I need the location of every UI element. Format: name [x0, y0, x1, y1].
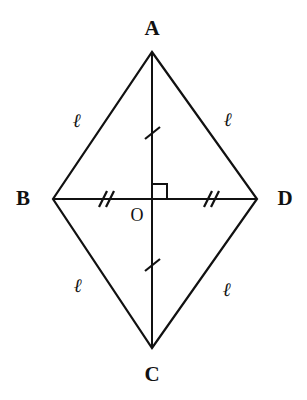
side-label-ab: ℓ: [73, 111, 81, 130]
side-label-cd: ℓ: [223, 280, 231, 299]
vertex-label-d: D: [277, 188, 292, 209]
side-label-bc: ℓ: [74, 276, 82, 295]
rhombus-diagram: [0, 0, 307, 400]
vertex-label-a: A: [144, 18, 159, 39]
center-point-label-o: O: [131, 206, 144, 224]
side-label-ad: ℓ: [224, 110, 232, 129]
vertex-label-c: C: [144, 364, 159, 385]
vertex-label-b: B: [16, 188, 30, 209]
